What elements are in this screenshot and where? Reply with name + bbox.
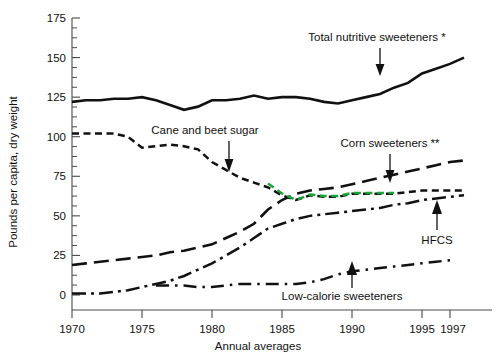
annotation-corn-sweeteners: Corn sweeteners ** — [340, 137, 440, 183]
y-axis-title: Pounds per capita, dry weight — [7, 95, 19, 247]
y-tick-150: 150 — [47, 52, 80, 64]
y-tick-label: 25 — [53, 249, 66, 261]
arrow-head-icon — [432, 200, 442, 214]
arrow-head-icon — [347, 261, 357, 275]
x-tick-label: 1997 — [440, 323, 466, 335]
x-tick-1995: 1995 — [409, 310, 435, 335]
y-tick-label: 100 — [47, 131, 66, 143]
x-tick-1985: 1985 — [269, 310, 295, 335]
x-tick-1970: 1970 — [59, 310, 85, 335]
x-tick-label: 1970 — [59, 323, 85, 335]
y-tick-0: 0 — [60, 289, 80, 301]
y-axis-ticks: 175 150 125 100 75 50 — [47, 12, 80, 301]
annotation-label-hfcs: HFCS — [421, 234, 453, 246]
y-tick-label: 125 — [47, 91, 66, 103]
x-tick-1990: 1990 — [339, 310, 365, 335]
y-tick-label: 0 — [60, 289, 66, 301]
arrow-head-icon — [376, 64, 385, 76]
annotation-label-total-nutritive: Total nutritive sweeteners * — [308, 31, 446, 43]
x-tick-label: 1990 — [339, 323, 365, 335]
series-group — [72, 58, 464, 294]
series-low-calorie-sweeteners — [156, 260, 450, 287]
x-tick-1975: 1975 — [129, 310, 155, 335]
x-axis-title: Annual averages — [215, 340, 302, 352]
y-tick-label: 50 — [53, 210, 66, 222]
annotation-cane-beet: Cane and beet sugar — [151, 124, 259, 172]
y-tick-label: 75 — [53, 170, 66, 182]
y-tick-75: 75 — [53, 170, 80, 182]
axes — [72, 18, 492, 310]
y-tick-50: 50 — [53, 210, 80, 222]
x-tick-1980: 1980 — [199, 310, 225, 335]
sweetener-consumption-line-chart: 175 150 125 100 75 50 — [0, 0, 503, 355]
annotation-label-corn-sweeteners: Corn sweeteners ** — [340, 137, 440, 149]
y-axis-minor-ticks — [72, 28, 77, 285]
series-corn-sweeteners — [72, 160, 464, 264]
series-total-nutritive-sweeteners — [72, 58, 464, 110]
x-tick-1997: 1997 — [440, 310, 466, 335]
y-tick-25: 25 — [53, 249, 80, 261]
x-tick-label: 1995 — [409, 323, 435, 335]
x-axis-ticks: 1970 1975 1980 1985 1990 1995 — [59, 310, 466, 335]
annotation-hfcs: HFCS — [421, 200, 453, 246]
annotation-total-nutritive: Total nutritive sweeteners * — [308, 31, 446, 76]
y-tick-175: 175 — [47, 12, 80, 24]
y-tick-label: 150 — [47, 52, 66, 64]
x-tick-label: 1975 — [129, 323, 155, 335]
chart-container: 175 150 125 100 75 50 — [0, 0, 503, 355]
x-tick-label: 1980 — [199, 323, 225, 335]
annotation-label-low-calorie: Low-calorie sweeteners — [282, 290, 403, 302]
annotation-label-cane-beet: Cane and beet sugar — [151, 124, 259, 136]
x-tick-label: 1985 — [269, 323, 295, 335]
y-tick-label: 175 — [47, 12, 66, 24]
